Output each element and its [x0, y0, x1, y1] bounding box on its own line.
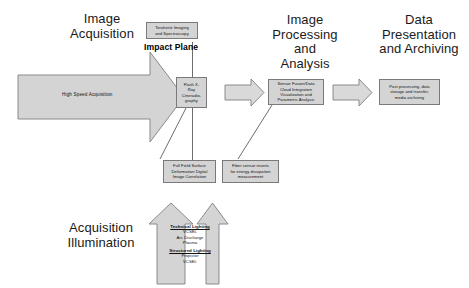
technical-lighting-heading: Technical Lighting	[170, 224, 209, 229]
box-terahertz-imaging[interactable]: Terahertz Imaging and Spectroscopy	[146, 22, 198, 39]
connector-arrow-to-full-field	[158, 108, 188, 160]
label-impact-plane: Impact Plane	[144, 42, 198, 52]
box-full-field-surface[interactable]: Full Field Surface Deformation Digital I…	[163, 160, 216, 183]
label-high-speed-acquisition: High Speed Acquisition	[62, 92, 113, 97]
box-sensor-fusion[interactable]: Sensor Fusion/Data Cloud Integration Vis…	[268, 79, 324, 105]
structured-lighting-items: Projector VCSEL	[150, 253, 230, 264]
heading-acquisition-illumination: Acquisition Illumination	[44, 221, 158, 250]
processing-to-presentation-arrow	[333, 79, 373, 106]
heading-data-presentation: Data Presentation and Archiving	[370, 13, 468, 57]
connector-sensor-fusion-to-fiber	[222, 105, 274, 160]
illumination-text-block: Technical Lighting VCSEL Arc Discharge P…	[150, 224, 230, 264]
heading-image-processing: Image Processing and Analysis	[258, 13, 352, 71]
box-fiber-sensor-inserts[interactable]: Fiber sensor inserts for energy dissipat…	[222, 160, 279, 183]
diagram-canvas: Image Acquisition Image Processing and A…	[0, 0, 469, 288]
heading-image-acquisition: Image Acquisition	[46, 12, 158, 41]
acquisition-to-processing-arrow	[225, 79, 265, 106]
technical-lighting-items: VCSEL Arc Discharge Plasma	[150, 229, 230, 245]
box-post-processing[interactable]: Post processing, data storage and transf…	[379, 79, 440, 105]
structured-lighting-heading: Structured Lighting	[169, 248, 211, 253]
box-flash-xray-cineradiography[interactable]: Flash X- Ray Cineradio- graphy	[176, 77, 207, 108]
